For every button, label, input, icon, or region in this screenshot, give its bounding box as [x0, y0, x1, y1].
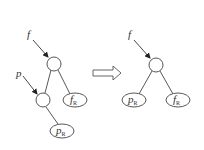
pointer-p-arrow: [23, 76, 37, 94]
edge-f-to-pR: [139, 71, 152, 94]
edge-f-to-fR: [160, 71, 173, 94]
edge-f-to-p: [45, 70, 51, 93]
pointer-p-label: p: [15, 67, 22, 79]
edge-p-to-pR: [46, 107, 58, 124]
pointer-f-label: f: [27, 28, 32, 40]
after-tree: f pR fR: [122, 28, 190, 107]
node-f: [47, 57, 61, 71]
transition-arrow-icon: [93, 66, 121, 80]
pointer-f-arrow: [134, 40, 150, 58]
edge-f-to-fR: [58, 70, 70, 94]
node-f: [149, 58, 163, 72]
tree-transformation-diagram: f p fR pR f pR fR: [0, 0, 204, 150]
pointer-f-label: f: [128, 28, 133, 40]
before-tree: f p fR pR: [15, 28, 87, 138]
pointer-f-arrow: [33, 40, 48, 57]
node-p: [36, 93, 50, 107]
